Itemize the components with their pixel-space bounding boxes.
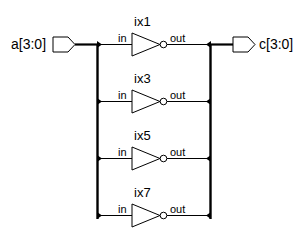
bus-ripper-arrow-icon — [206, 98, 211, 105]
inversion-bubble-icon — [160, 41, 167, 48]
inverter-triangle-icon — [132, 204, 160, 227]
instance-name: ix5 — [134, 128, 151, 143]
instance-name: ix1 — [134, 14, 151, 29]
input-port-label: a[3:0] — [11, 36, 46, 52]
pin-out-label: out — [170, 146, 185, 158]
input-port-a[interactable]: a[3:0] — [11, 36, 75, 52]
pin-in-label: in — [118, 203, 127, 215]
inversion-bubble-icon — [160, 212, 167, 219]
bus-ripper-arrow-icon — [97, 41, 102, 48]
output-port-icon — [233, 37, 255, 52]
inverter-triangle-icon — [132, 90, 160, 113]
output-port-label: c[3:0] — [259, 36, 293, 52]
bus-ripper-arrow-icon — [97, 212, 102, 219]
bus-ripper-arrow-icon — [97, 155, 102, 162]
inverter-triangle-icon — [132, 33, 160, 56]
bus-ripper-arrow-icon — [97, 98, 102, 105]
inverter-triangle-icon — [132, 147, 160, 170]
inversion-bubble-icon — [160, 98, 167, 105]
bus-ripper-arrow-icon — [206, 41, 211, 48]
instance-name: ix7 — [134, 185, 151, 200]
output-port-c[interactable]: c[3:0] — [233, 36, 293, 52]
pin-in-label: in — [118, 32, 127, 44]
inverter-ix7[interactable]: ix7 in out — [97, 185, 211, 227]
pin-in-label: in — [118, 146, 127, 158]
inverter-ix1[interactable]: ix1 in out — [97, 14, 211, 56]
inverter-ix3[interactable]: ix3 in out — [97, 71, 211, 113]
pin-out-label: out — [170, 203, 185, 215]
instance-name: ix3 — [134, 71, 151, 86]
bus-ripper-arrow-icon — [206, 212, 211, 219]
inverter-ix5[interactable]: ix5 in out — [97, 128, 211, 170]
pin-in-label: in — [118, 89, 127, 101]
pin-out-label: out — [170, 89, 185, 101]
pin-out-label: out — [170, 32, 185, 44]
bus-ripper-arrow-icon — [206, 155, 211, 162]
schematic-canvas: a[3:0] c[3:0] ix1 in out ix3 in out — [0, 0, 307, 243]
inversion-bubble-icon — [160, 155, 167, 162]
input-port-icon — [53, 37, 75, 52]
